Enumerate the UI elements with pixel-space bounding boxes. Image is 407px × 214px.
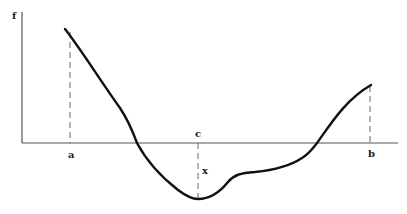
- point-label-x: x: [202, 165, 209, 176]
- function-curve: [65, 29, 371, 199]
- point-label-b: b: [368, 148, 375, 159]
- function-diagram: f a c x b: [0, 0, 407, 214]
- point-label-a: a: [68, 149, 75, 160]
- y-axis-label: f: [12, 10, 17, 21]
- point-label-c: c: [195, 128, 201, 139]
